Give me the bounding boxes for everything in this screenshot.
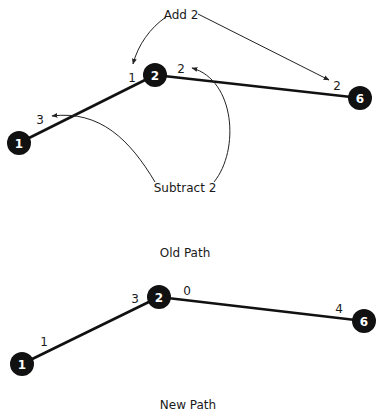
svg-text:1: 1 [18, 358, 26, 372]
new-label-e12-near-1: 1 [40, 335, 48, 349]
new-path-diagram: 1 2 6 1 3 0 4 New Path [10, 284, 376, 412]
old-label-e12-near-2: 1 [128, 71, 136, 85]
new-edge-2-6 [159, 297, 364, 321]
new-path-title: New Path [160, 398, 216, 412]
new-node-1: 1 [10, 352, 34, 376]
subtract-annotation: Subtract 2 [154, 181, 217, 195]
add-annotation: Add 2 [164, 8, 199, 22]
new-node-6: 6 [352, 309, 376, 333]
old-node-1: 1 [7, 131, 31, 155]
svg-text:6: 6 [360, 315, 368, 329]
svg-text:2: 2 [151, 69, 159, 83]
subtract-arrow-to-node2-label [192, 68, 230, 182]
new-node-2: 2 [147, 285, 171, 309]
subtract-arrow-to-node1-label [52, 115, 155, 182]
old-label-e26-near-6: 2 [333, 79, 341, 93]
old-path-title: Old Path [160, 246, 211, 260]
new-label-e12-near-2: 3 [131, 292, 139, 306]
new-label-e26-near-2: 0 [183, 284, 191, 298]
old-path-diagram: 1 2 6 3 1 2 2 Add 2 Subtract 2 Old Path [7, 8, 372, 260]
svg-text:1: 1 [15, 137, 23, 151]
new-edge-1-2 [22, 297, 159, 364]
new-label-e26-near-6: 4 [335, 302, 343, 316]
old-edge-1-2 [19, 75, 155, 143]
path-diagram: 1 2 6 3 1 2 2 Add 2 Subtract 2 Old Path … [0, 0, 379, 418]
old-node-2: 2 [143, 63, 167, 87]
old-label-e26-near-2: 2 [177, 62, 185, 76]
old-label-e12-near-1: 3 [36, 113, 44, 127]
add-arrow-to-node2-label [133, 17, 166, 64]
add-arrow-to-node6-label [198, 14, 329, 80]
old-edge-2-6 [155, 75, 360, 98]
svg-text:2: 2 [155, 291, 163, 305]
old-node-6: 6 [348, 86, 372, 110]
svg-text:6: 6 [356, 92, 364, 106]
